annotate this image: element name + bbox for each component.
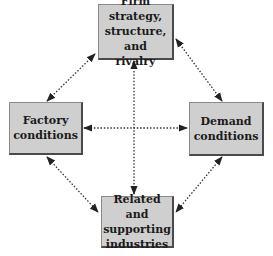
node-related-industries: Related and supporting industries [101, 196, 174, 248]
node-firm-strategy: Firm strategy, structure, and rivalry [98, 4, 174, 60]
node-label: Demand conditions [194, 114, 259, 144]
edge-top-left [47, 54, 95, 101]
edge-top-right [176, 39, 222, 101]
node-label: Related and supporting industries [103, 192, 171, 252]
node-label: Factory conditions [13, 113, 78, 143]
diamond-diagram: Firm strategy, structure, and rivalry Fa… [0, 0, 273, 256]
edge-left-bottom [47, 157, 98, 212]
node-factory-conditions: Factory conditions [9, 102, 83, 155]
edge-right-bottom [176, 157, 222, 212]
node-demand-conditions: Demand conditions [189, 102, 264, 156]
node-label: Firm strategy, structure, and rivalry [103, 0, 168, 69]
